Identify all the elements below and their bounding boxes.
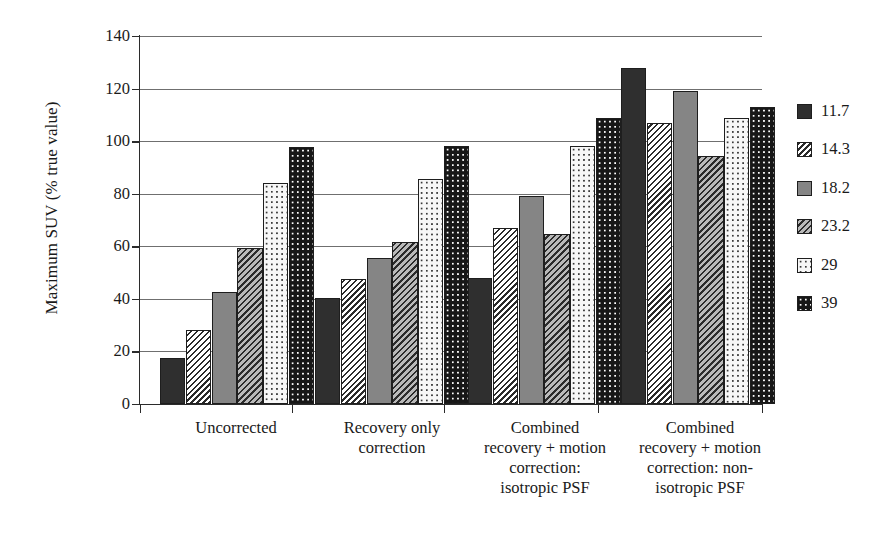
legend-item[interactable]: 14.3 bbox=[797, 139, 882, 161]
bar bbox=[160, 358, 185, 404]
y-tick-label: 60 bbox=[90, 236, 130, 256]
x-tick bbox=[140, 404, 141, 413]
bar bbox=[493, 228, 518, 404]
bar bbox=[444, 146, 469, 404]
legend-swatch-icon bbox=[797, 219, 812, 234]
y-tick-label: 20 bbox=[90, 341, 130, 361]
y-tick-120 bbox=[132, 89, 140, 90]
bar bbox=[392, 242, 417, 404]
bar bbox=[673, 91, 698, 404]
bar bbox=[596, 118, 621, 405]
legend-swatch-icon bbox=[797, 104, 812, 119]
bar bbox=[467, 278, 492, 404]
chart-legend: 11.714.318.223.22939 bbox=[797, 100, 882, 331]
bar bbox=[341, 279, 366, 404]
gridline-140 bbox=[140, 36, 762, 37]
y-tick-100 bbox=[132, 141, 140, 142]
bar bbox=[186, 330, 211, 404]
x-tick bbox=[444, 404, 445, 413]
x-tick bbox=[762, 404, 763, 413]
legend-item[interactable]: 29 bbox=[797, 254, 882, 276]
legend-label: 18.2 bbox=[821, 180, 850, 197]
x-category-label: Recovery only correction bbox=[307, 418, 477, 458]
y-tick-label: 40 bbox=[90, 289, 130, 309]
bar bbox=[570, 146, 595, 404]
bar bbox=[418, 179, 443, 404]
legend-item[interactable]: 11.7 bbox=[797, 100, 882, 122]
legend-label: 23.2 bbox=[821, 218, 850, 235]
y-tick-140 bbox=[132, 36, 140, 37]
legend-label: 14.3 bbox=[821, 141, 850, 158]
y-axis-title: Maximum SUV (% true value) bbox=[42, 38, 62, 378]
bar bbox=[519, 196, 544, 404]
bar bbox=[315, 298, 340, 404]
bar bbox=[647, 123, 672, 404]
legend-label: 39 bbox=[821, 295, 838, 312]
y-tick-label: 120 bbox=[90, 79, 130, 99]
legend-swatch-icon bbox=[797, 296, 812, 311]
y-tick-label: 80 bbox=[90, 184, 130, 204]
x-category-label: Combined recovery + motion correction: n… bbox=[615, 418, 785, 499]
legend-label: 29 bbox=[821, 257, 838, 274]
x-category-label: Uncorrected bbox=[151, 418, 321, 438]
y-tick-label: 100 bbox=[90, 131, 130, 151]
y-tick-60 bbox=[132, 246, 140, 247]
legend-item[interactable]: 23.2 bbox=[797, 216, 882, 238]
bar bbox=[289, 147, 314, 404]
bar bbox=[724, 118, 749, 404]
legend-swatch-icon bbox=[797, 258, 812, 273]
bar bbox=[263, 183, 288, 404]
x-tick bbox=[598, 404, 599, 413]
legend-label: 11.7 bbox=[821, 103, 849, 120]
legend-swatch-icon bbox=[797, 181, 812, 196]
bar bbox=[621, 68, 646, 404]
x-tick bbox=[292, 404, 293, 413]
plot-area: 020406080100120140 bbox=[140, 36, 762, 404]
gridline-120 bbox=[140, 89, 762, 90]
y-tick-20 bbox=[132, 351, 140, 352]
bar bbox=[698, 156, 723, 404]
legend-swatch-icon bbox=[797, 142, 812, 157]
legend-item[interactable]: 39 bbox=[797, 293, 882, 315]
x-category-label: Combined recovery + motion correction: i… bbox=[460, 418, 630, 499]
bar bbox=[750, 107, 775, 404]
bar bbox=[367, 258, 392, 404]
bar bbox=[212, 292, 237, 404]
bar bbox=[544, 234, 569, 404]
y-tick-40 bbox=[132, 299, 140, 300]
legend-item[interactable]: 18.2 bbox=[797, 177, 882, 199]
y-tick-80 bbox=[132, 194, 140, 195]
y-tick-label: 140 bbox=[90, 26, 130, 46]
chart-figure: Maximum SUV (% true value) 0204060801001… bbox=[0, 0, 886, 534]
gridline-0 bbox=[140, 404, 762, 405]
y-tick-0 bbox=[132, 404, 140, 405]
bar bbox=[237, 248, 262, 404]
y-tick-label: 0 bbox=[90, 394, 130, 414]
